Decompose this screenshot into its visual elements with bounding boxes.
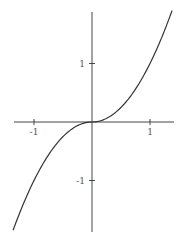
y-tick-label: 1 (79, 59, 85, 69)
x-tick-label: 1 (147, 127, 153, 137)
curve-line (13, 11, 172, 231)
function-plot: -11 1-1 (0, 0, 189, 251)
x-tick-label: -1 (30, 127, 39, 137)
y-tick-label: -1 (76, 176, 85, 186)
